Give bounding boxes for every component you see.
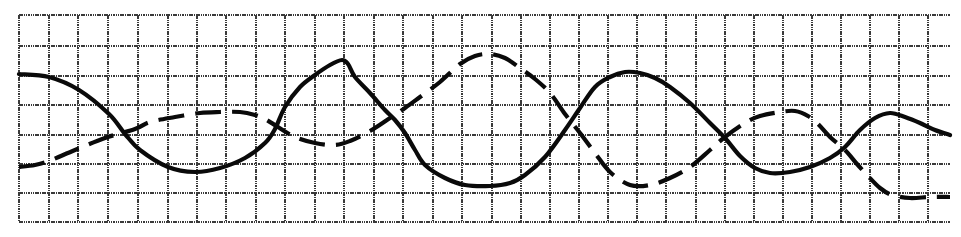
chart-canvas: [0, 0, 961, 237]
series-solid-line: [19, 60, 950, 186]
line-chart: [0, 0, 961, 237]
